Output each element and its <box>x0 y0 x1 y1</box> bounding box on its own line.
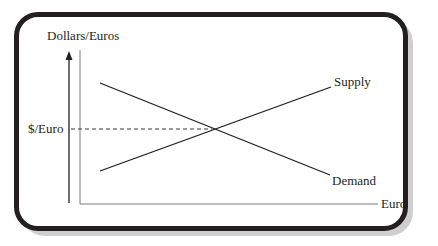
diagram-stage: Dollars/Euros $/Euro Supply Demand Euro <box>0 0 438 246</box>
demand-label: Demand <box>332 174 376 188</box>
supply-label: Supply <box>334 75 371 89</box>
x-axis-label: Euro <box>381 197 406 211</box>
equilibrium-price-label: $/Euro <box>28 122 63 136</box>
y-axis-label: Dollars/Euros <box>47 29 119 43</box>
up-arrow-icon <box>66 51 73 203</box>
